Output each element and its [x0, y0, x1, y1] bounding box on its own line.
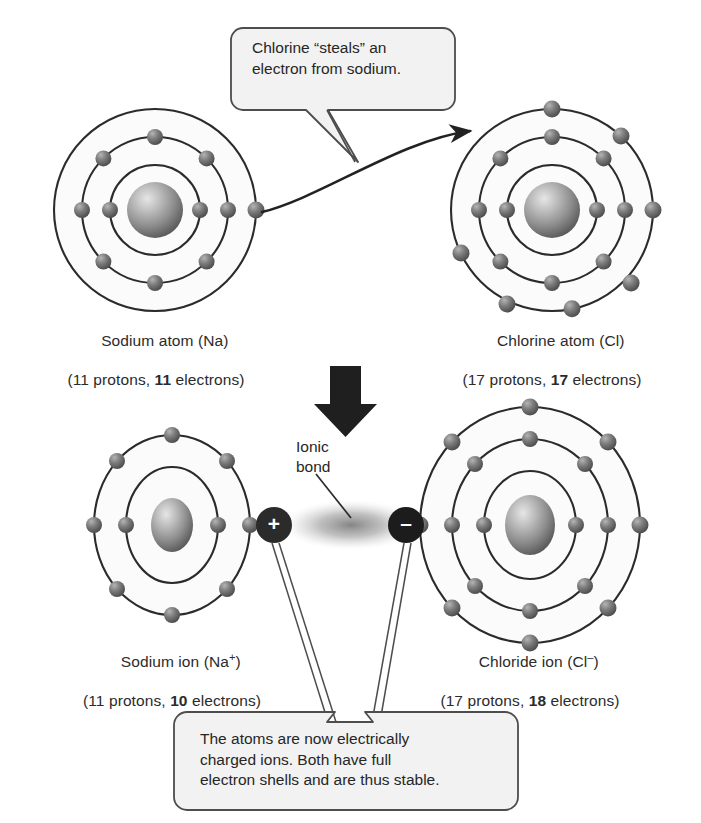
sodium-ion-counts: (11 protons, 10 electrons) — [44, 691, 300, 711]
chlorine-atom-label: Chlorine atom (Cl) (17 protons, 17 elect… — [424, 311, 680, 430]
minus-charge-symbol: – — [394, 512, 418, 533]
sodium-ion-graphic — [86, 427, 258, 623]
chloride-ion-name: Chloride ion (Cl–) — [479, 653, 599, 670]
chlorine-atom-graphic — [451, 101, 662, 318]
diagram-canvas: Chlorine “steals” an electron from sodiu… — [0, 0, 701, 823]
chloride-ion-graphic — [412, 399, 649, 652]
sodium-ion-name: Sodium ion (Na+) — [121, 653, 241, 670]
electron-transfer-arrow — [262, 131, 470, 212]
sodium-atom-name: Sodium atom (Na) — [101, 332, 228, 349]
sodium-atom-counts: (11 protons, 11 electrons) — [28, 370, 284, 390]
reaction-arrow — [314, 366, 377, 437]
chlorine-atom-counts: (17 protons, 17 electrons) — [424, 370, 680, 390]
ionic-bond-label: Ionic bond — [296, 437, 392, 477]
bottom-callout-text: The atoms are now electrically charged i… — [200, 729, 510, 791]
plus-charge-symbol: + — [262, 513, 286, 534]
sodium-atom-label: Sodium atom (Na) (11 protons, 11 electro… — [28, 311, 284, 430]
chlorine-atom-name: Chlorine atom (Cl) — [497, 332, 625, 349]
top-callout-text: Chlorine “steals” an electron from sodiu… — [252, 38, 442, 79]
chloride-ion-counts: (17 protons, 18 electrons) — [402, 691, 658, 711]
sodium-atom-graphic — [54, 109, 265, 311]
